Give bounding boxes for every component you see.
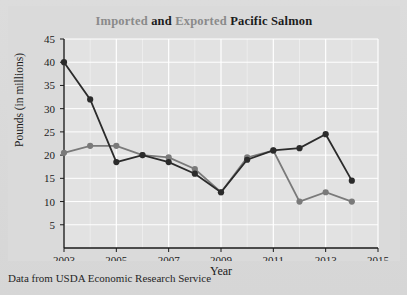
- svg-text:5: 5: [50, 219, 56, 231]
- data-point-imported: [87, 143, 93, 149]
- data-point-exported: [61, 59, 67, 65]
- source-caption: Data from USDA Economic Research Service: [8, 272, 211, 284]
- data-point-exported: [192, 171, 198, 177]
- data-point-imported: [296, 198, 302, 204]
- data-point-exported: [244, 157, 250, 163]
- data-point-exported: [87, 96, 93, 102]
- svg-text:2007: 2007: [158, 254, 181, 261]
- figure-container: Imported and Exported Pacific Salmon 510…: [0, 0, 407, 295]
- svg-text:2013: 2013: [315, 254, 338, 261]
- data-point-imported: [323, 189, 329, 195]
- svg-text:2015: 2015: [367, 254, 390, 261]
- data-point-exported: [166, 159, 172, 165]
- svg-text:35: 35: [44, 79, 56, 91]
- x-axis-tick-labels: 2003200520072009201120132015: [53, 248, 390, 261]
- y-axis-label: Pounds (in millions): [13, 15, 25, 185]
- svg-text:2003: 2003: [53, 254, 76, 261]
- svg-text:40: 40: [44, 56, 56, 68]
- svg-text:2005: 2005: [105, 254, 128, 261]
- svg-text:25: 25: [44, 126, 56, 138]
- svg-text:2009: 2009: [210, 254, 233, 261]
- data-point-exported: [323, 131, 329, 137]
- svg-text:15: 15: [44, 172, 56, 184]
- data-point-exported: [270, 147, 276, 153]
- data-point-exported: [296, 145, 302, 151]
- data-point-imported: [349, 198, 355, 204]
- svg-text:20: 20: [44, 149, 56, 161]
- plot-card: Imported and Exported Pacific Salmon 510…: [8, 6, 400, 261]
- data-point-imported: [61, 150, 67, 156]
- svg-text:45: 45: [44, 33, 56, 45]
- svg-text:10: 10: [44, 196, 56, 208]
- data-point-exported: [139, 152, 145, 158]
- data-point-exported: [113, 159, 119, 165]
- svg-text:30: 30: [44, 103, 56, 115]
- line-chart-svg: 51015202530354045 2003200520072009201120…: [8, 6, 400, 261]
- data-point-exported: [218, 189, 224, 195]
- svg-text:2011: 2011: [263, 254, 285, 261]
- data-point-imported: [113, 143, 119, 149]
- data-point-exported: [349, 178, 355, 184]
